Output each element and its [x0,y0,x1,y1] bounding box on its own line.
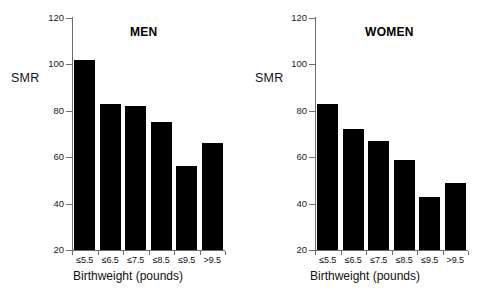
y-tick-label-120: 120 [0,12,73,23]
y-axis-label-women: SMR [255,71,283,85]
bar-men-3 [151,122,172,250]
x-tick-label-women-5: >9.5 [440,255,472,265]
y-tick-label-100: 100 [0,58,73,69]
bar-women-4 [419,197,440,250]
bar-women-1 [343,129,364,250]
bar-men-2 [125,106,146,250]
y-tick-label-60: 60 [243,151,316,162]
bars-group-men [72,18,225,250]
y-tick-label-20: 20 [243,244,316,255]
bar-women-5 [445,183,466,250]
panel-men: MEN SMR 20406080100120 ≤5.5≤6.5≤7.5≤8.5≤… [0,0,244,298]
figure-two-panel-bar-chart: MEN SMR 20406080100120 ≤5.5≤6.5≤7.5≤8.5≤… [0,0,487,298]
y-tick-label-100: 100 [243,58,316,69]
bar-men-0 [74,60,95,250]
y-tick-label-80: 80 [0,105,73,116]
bar-women-3 [394,160,415,250]
bars-group-women [315,18,468,250]
y-tick-label-40: 40 [0,198,73,209]
y-axis-label-men: SMR [11,71,39,85]
bar-women-0 [317,104,338,250]
y-tick-label-20: 20 [0,244,73,255]
bar-women-2 [368,141,389,250]
x-axis-title-women: Birthweight (pounds) [243,269,487,283]
y-tick-label-80: 80 [243,105,316,116]
bar-men-1 [100,104,121,250]
x-tick-label-men-5: >9.5 [197,255,229,265]
bar-men-4 [176,166,197,250]
bar-men-5 [202,143,223,250]
panel-women: WOMEN SMR 20406080100120 ≤5.5≤6.5≤7.5≤8.… [243,0,487,298]
x-axis-title-men: Birthweight (pounds) [6,269,250,283]
y-tick-label-40: 40 [243,198,316,209]
y-tick-label-120: 120 [243,12,316,23]
y-tick-label-60: 60 [0,151,73,162]
